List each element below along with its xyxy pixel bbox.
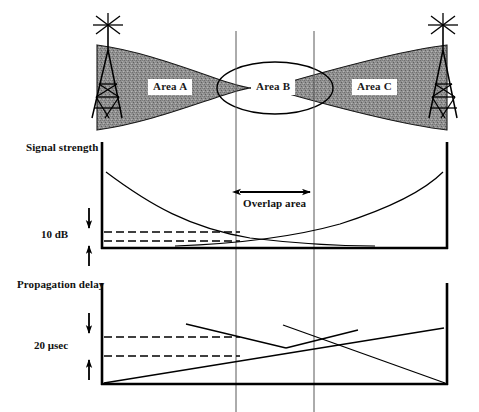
signal-curve-right — [175, 172, 443, 246]
area-c-label: Area C — [352, 79, 397, 95]
figure-canvas — [0, 0, 479, 412]
signal-strength-axis-label: Signal strength — [26, 142, 99, 153]
area-a-label: Area A — [148, 79, 192, 95]
signal-scale-label: 10 dB — [41, 229, 68, 240]
area-b-label: Area B — [251, 79, 295, 95]
propagation-delay-axis-label: Propagation delay — [17, 279, 104, 290]
delay-line-left-upper — [286, 330, 358, 348]
coverage-delay-figure: Area A Area B Area C Signal strength 10 … — [0, 0, 479, 412]
propagation-delay-chart — [89, 283, 448, 385]
signal-curve-left — [106, 172, 375, 246]
overlap-area-label: Overlap area — [243, 198, 306, 209]
delay-scale-label: 20 μsec — [34, 340, 68, 351]
delay-line-right — [283, 325, 445, 383]
